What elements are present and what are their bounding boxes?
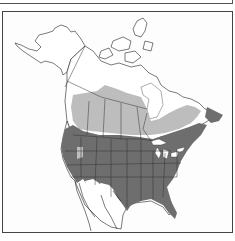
arctic-islands xyxy=(99,18,153,63)
range-map xyxy=(3,12,232,232)
interior-west-light xyxy=(77,147,83,159)
top-panel-edge xyxy=(0,0,233,4)
map-frame xyxy=(2,11,233,233)
